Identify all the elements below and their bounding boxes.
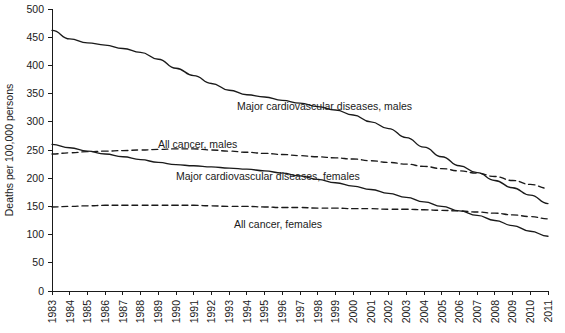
series-line (52, 205, 548, 219)
line-chart: Deaths per 100,000 persons 0501001502002… (0, 0, 565, 333)
y-tick-label: 100 (26, 228, 44, 240)
x-tick-label: 2007 (471, 300, 483, 324)
x-tick-label: 1988 (134, 300, 146, 324)
series-annotation-label: All cancer, females (234, 218, 322, 230)
series-annotation-label: Major cardiovascular diseases, females (176, 170, 360, 182)
x-tick-label: 2000 (347, 300, 359, 324)
x-tick-label: 2002 (382, 300, 394, 324)
x-tick-label: 2001 (365, 300, 377, 324)
x-tick-label: 1984 (64, 300, 76, 324)
series-lines (52, 30, 548, 236)
x-tick-label: 1987 (117, 300, 129, 324)
x-axis-ticks: 1983198419851986198719881989199019911992… (46, 291, 554, 323)
x-tick-label: 2010 (524, 300, 536, 324)
y-tick-label: 50 (32, 256, 44, 268)
x-tick-label: 2008 (489, 300, 501, 324)
x-tick-label: 1994 (241, 300, 253, 324)
x-tick-label: 2004 (418, 300, 430, 324)
y-tick-label: 250 (26, 144, 44, 156)
x-tick-label: 1985 (81, 300, 93, 324)
x-tick-label: 1997 (294, 300, 306, 324)
series-annotation-label: Major cardiovascular diseases, males (237, 100, 412, 112)
y-tick-label: 300 (26, 115, 44, 127)
series-annotation-label: All cancer, males (158, 138, 237, 150)
x-tick-label: 2003 (400, 300, 412, 324)
x-tick-label: 1989 (152, 300, 164, 324)
x-tick-label: 1983 (46, 300, 58, 324)
series-line (52, 149, 548, 188)
x-tick-label: 2006 (453, 300, 465, 324)
y-tick-label: 450 (26, 31, 44, 43)
x-tick-label: 1986 (99, 300, 111, 324)
x-tick-label: 1993 (223, 300, 235, 324)
series-annotations: Major cardiovascular diseases, malesAll … (158, 100, 412, 230)
x-tick-label: 1996 (276, 300, 288, 324)
x-tick-label: 1995 (258, 300, 270, 324)
y-tick-label: 200 (26, 172, 44, 184)
x-tick-label: 1990 (170, 300, 182, 324)
chart-container: Deaths per 100,000 persons 0501001502002… (0, 0, 565, 333)
y-axis-title: Deaths per 100,000 persons (3, 84, 15, 217)
y-tick-label: 0 (38, 285, 44, 297)
x-tick-label: 1999 (329, 300, 341, 324)
y-tick-label: 400 (26, 59, 44, 71)
y-axis-ticks: 050100150200250300350400450500 (26, 3, 52, 297)
x-tick-label: 1992 (205, 300, 217, 324)
x-tick-label: 2009 (506, 300, 518, 324)
x-tick-label: 1998 (312, 300, 324, 324)
y-axis-title-text: Deaths per 100,000 persons (3, 84, 15, 217)
x-tick-label: 2005 (436, 300, 448, 324)
y-tick-label: 350 (26, 87, 44, 99)
y-tick-label: 500 (26, 3, 44, 15)
y-tick-label: 150 (26, 200, 44, 212)
x-tick-label: 2011 (542, 300, 554, 323)
x-tick-label: 1991 (188, 300, 200, 324)
